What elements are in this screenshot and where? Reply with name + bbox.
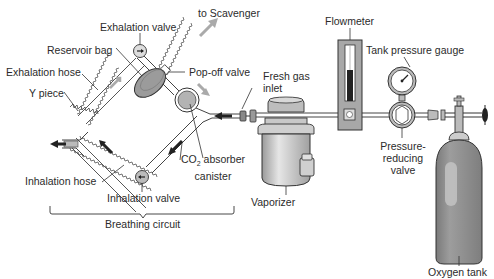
co2-absorber-canister <box>175 84 210 112</box>
inhalation-valve <box>136 171 149 184</box>
vaporizer <box>258 97 314 195</box>
oxygen-tank <box>436 140 482 266</box>
fresh-gas-line <box>196 108 240 122</box>
label-fresh-gas-inlet: Fresh gas inlet <box>263 70 310 94</box>
breathing-circuit-brace <box>50 206 234 218</box>
label-exhalation-valve: Exhalation valve <box>100 21 176 33</box>
label-to-scavenger: to Scavenger <box>198 7 260 19</box>
label-breathing-circuit: Breathing circuit <box>105 218 180 230</box>
tank-regulator-fittings <box>428 96 488 140</box>
label-inhalation-hose: Inhalation hose <box>25 175 96 187</box>
tank-pressure-gauge <box>388 57 416 101</box>
fresh-gas-inlet <box>240 110 256 122</box>
label-exhalation-hose: Exhalation hose <box>6 66 81 78</box>
label-co2-line1: CO2 absorber <box>180 153 246 170</box>
pressure-reducing-valve <box>389 102 415 138</box>
anesthesia-circuit-diagram: to Scavenger Exhalation valve Reservoir … <box>0 0 494 279</box>
label-vaporizer: Vaporizer <box>251 196 295 208</box>
label-fresh-gas-inlet-line1: Fresh gas <box>263 70 310 82</box>
flowmeter <box>338 28 362 130</box>
label-flowmeter: Flowmeter <box>325 15 374 27</box>
exhalation-valve <box>134 45 147 58</box>
label-pressure-reducing-line1: Pressure- <box>377 140 429 152</box>
label-pressure-reducing-line3: valve <box>377 164 429 176</box>
label-reservoir-bag: Reservoir bag <box>47 44 112 56</box>
label-y-piece: Y piece <box>29 87 64 99</box>
label-inhalation-valve: Inhalation valve <box>107 192 180 204</box>
label-pressure-reducing-line2: reducing <box>377 152 429 164</box>
label-co2-line2: canister <box>180 170 246 182</box>
label-co2-absorber-canister: CO2 absorber canister <box>180 153 246 182</box>
label-pop-off-valve: Pop-off valve <box>189 66 250 78</box>
label-pressure-reducing-valve: Pressure- reducing valve <box>377 140 429 176</box>
label-tank-pressure-gauge: Tank pressure gauge <box>366 44 464 56</box>
label-fresh-gas-inlet-line2: inlet <box>263 82 310 94</box>
label-oxygen-tank: Oxygen tank <box>428 266 487 278</box>
